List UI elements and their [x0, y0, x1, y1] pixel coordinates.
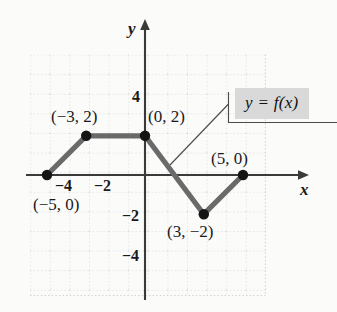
- point-label-5-0: (5, 0): [211, 150, 248, 167]
- x-axis-label: x: [300, 181, 309, 198]
- x-tick-neg4: −4: [55, 178, 72, 194]
- point-label-0-2: (0, 2): [148, 108, 185, 125]
- y-axis-arrowhead: [140, 19, 150, 30]
- point-label-3-neg2: (3, −2): [167, 223, 213, 240]
- data-point-5-0: [238, 170, 248, 180]
- point-label-neg5-0: (−5, 0): [33, 196, 79, 213]
- coordinate-plane: [0, 0, 337, 312]
- y-tick-neg2: −2: [122, 208, 139, 224]
- data-point-neg3-2: [81, 131, 91, 141]
- graph-figure: y x −4 −2 4 −2 −4 (−3, 2) (0, 2) (−5, 0)…: [0, 0, 337, 312]
- y-tick-neg4: −4: [122, 248, 139, 264]
- y-axis-label: y: [128, 20, 136, 37]
- data-point-neg5-0: [42, 170, 52, 180]
- point-label-neg3-2: (−3, 2): [51, 108, 97, 125]
- data-point-3-neg2: [199, 209, 209, 219]
- y-tick-4: 4: [132, 89, 140, 105]
- function-label-box: y = f(x): [235, 88, 309, 119]
- x-axis-arrowhead: [298, 170, 309, 180]
- x-tick-neg2: −2: [94, 178, 111, 194]
- data-point-0-2: [140, 131, 150, 141]
